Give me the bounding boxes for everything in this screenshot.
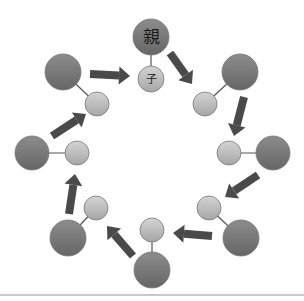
arrow-lower-right-to-bottom-shaft xyxy=(184,234,212,236)
parent-node-left xyxy=(15,136,49,170)
parent-node-right xyxy=(256,136,290,170)
arrow-top-to-upper-right-shaft xyxy=(170,53,186,75)
arrow-lower-left-to-left-head-icon xyxy=(64,174,82,186)
bottom-divider xyxy=(0,294,304,296)
child-label: 子 xyxy=(146,73,157,86)
child-node-left xyxy=(65,141,89,165)
arrow-upper-left-to-top-head-icon xyxy=(119,66,130,84)
arrow-upper-left-to-top-shaft xyxy=(90,74,119,75)
child-node-upper-left xyxy=(85,92,109,116)
child-node-lower-left xyxy=(84,196,108,220)
child-node-bottom xyxy=(140,218,164,242)
arrow-upper-right-to-right-shaft xyxy=(237,97,244,125)
parent-node-upper-left xyxy=(45,54,81,90)
arrow-lower-left-to-left-shaft xyxy=(69,185,73,214)
child-node-right xyxy=(217,141,241,165)
parent-node-upper-right xyxy=(222,54,258,90)
parent-node-lower-right xyxy=(223,220,259,256)
parent-node-bottom xyxy=(134,252,170,288)
arrow-lower-right-to-bottom-head-icon xyxy=(173,225,185,243)
parent-label: 親 xyxy=(143,27,160,47)
arrow-left-to-upper-left-shaft xyxy=(52,120,77,136)
arrow-bottom-to-lower-left-shaft xyxy=(114,234,133,256)
child-node-lower-right xyxy=(197,196,221,220)
parent-node-lower-left xyxy=(50,220,86,256)
child-node-upper-right xyxy=(193,92,217,116)
arrow-right-to-lower-right-shaft xyxy=(234,175,258,191)
parent-child-cycle-diagram: 親子 xyxy=(0,0,304,301)
